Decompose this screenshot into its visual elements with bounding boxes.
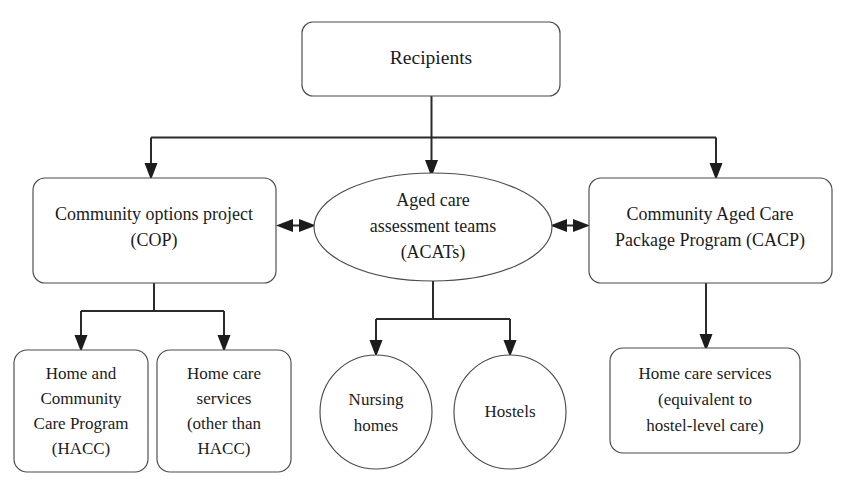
hostel-level-care-label-line2: (equivalent to: [658, 390, 752, 409]
other-than-hacc-label-line1: Home care: [187, 364, 261, 383]
node-nursing-homes[interactable]: Nursing homes: [320, 355, 432, 469]
node-hostels[interactable]: Hostels: [454, 355, 566, 469]
node-cacp[interactable]: Community Aged Care Package Program (CAC…: [589, 178, 832, 283]
hacc-label-line1: Home and: [46, 364, 117, 383]
hostel-level-care-label-line3: hostel-level care): [646, 416, 764, 435]
hostel-level-care-label-line1: Home care services: [638, 364, 771, 383]
nursing-homes-label-line1: Nursing: [349, 390, 404, 409]
acats-label-line3: (ACATs): [401, 242, 466, 263]
node-other-than-hacc[interactable]: Home care services (other than HACC): [157, 350, 291, 472]
edge-cop-split: [75, 283, 231, 352]
cop-label-line2: (COP): [130, 230, 177, 251]
node-recipients[interactable]: Recipients: [302, 22, 560, 96]
edge-recipients-to-cop: [145, 138, 158, 181]
nursing-homes-circle[interactable]: [320, 355, 432, 469]
edge-acats-cacp-link: [550, 219, 590, 232]
acats-label-line2: assessment teams: [370, 216, 496, 236]
hacc-label-line4: (HACC): [52, 439, 111, 458]
edge-cop-acats-link: [276, 219, 316, 232]
hacc-label-line3: Care Program: [34, 414, 129, 433]
edge-acats-split: [370, 281, 517, 357]
hacc-label-line2: Community: [40, 389, 122, 408]
node-cop[interactable]: Community options project (COP): [33, 178, 276, 283]
nursing-homes-label-line2: homes: [354, 416, 398, 435]
other-than-hacc-label-line3: (other than: [187, 414, 262, 433]
acats-label-line1: Aged care: [396, 190, 469, 210]
other-than-hacc-label-line4: HACC): [198, 439, 251, 458]
edge-recipients-to-cacp: [710, 138, 723, 181]
recipients-label: Recipients: [390, 47, 472, 68]
other-than-hacc-label-line2: services: [197, 389, 252, 408]
flowchart-svg: Recipients Community options project (CO…: [0, 0, 842, 491]
edge-recipients-to-acats: [425, 138, 438, 178]
hostels-label: Hostels: [485, 402, 536, 421]
diagram-canvas: Recipients Community options project (CO…: [0, 0, 842, 491]
edge-cacp-to-hostel-level-care: [700, 283, 713, 351]
node-hacc[interactable]: Home and Community Care Program (HACC): [14, 350, 148, 472]
node-hostel-level-care[interactable]: Home care services (equivalent to hostel…: [610, 348, 800, 453]
cacp-label-line1: Community Aged Care: [627, 204, 794, 224]
cacp-label-line2: Package Program (CACP): [615, 230, 805, 251]
node-acats[interactable]: Aged care assessment teams (ACATs): [314, 173, 552, 281]
cop-label-line1: Community options project: [55, 204, 253, 224]
